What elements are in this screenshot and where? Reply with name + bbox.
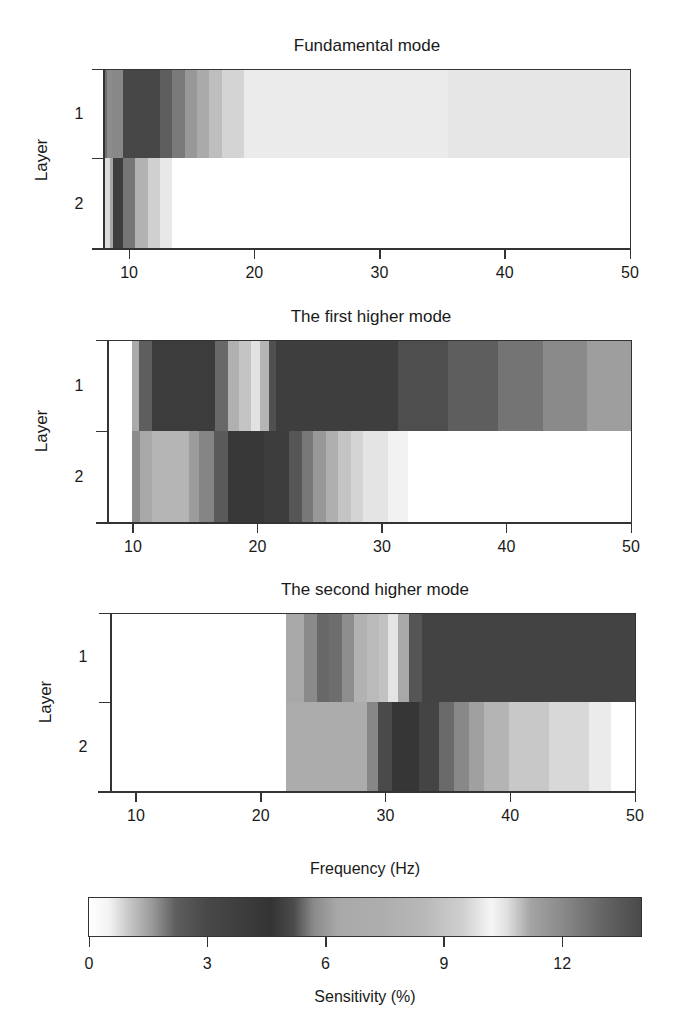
y-tick-label-layer-2: 2 <box>79 738 88 756</box>
x-tick <box>132 522 134 533</box>
sensitivity-cell <box>135 158 148 248</box>
x-tick <box>385 791 387 802</box>
y-tick-label-layer-1: 1 <box>75 377 84 395</box>
x-tick <box>510 791 512 802</box>
sensitivity-cell <box>286 702 368 791</box>
x-tick-label: 10 <box>120 264 138 282</box>
sensitivity-cell <box>363 431 388 522</box>
sensitivity-cell <box>139 340 152 431</box>
sensitivity-cell <box>439 702 454 791</box>
sensitivity-cell <box>448 69 630 158</box>
sensitivity-cell <box>228 431 265 522</box>
y-axis-line <box>110 613 112 792</box>
x-tick-label: 30 <box>377 807 395 825</box>
x-tick-label: 40 <box>496 264 514 282</box>
sensitivity-cell <box>409 613 422 702</box>
x-tick-label: 20 <box>252 807 270 825</box>
sensitivity-cell <box>469 702 484 791</box>
sensitivity-cell <box>276 340 399 431</box>
y-tick <box>96 340 107 342</box>
sensitivity-cell <box>244 69 449 158</box>
sensitivity-cell <box>113 158 124 248</box>
sensitivity-cell <box>209 69 222 158</box>
sensitivity-cell <box>199 431 214 522</box>
x-tick <box>257 522 259 533</box>
sensitivity-cell <box>543 340 588 431</box>
layer-row-2 <box>108 431 631 522</box>
x-tick <box>381 522 383 533</box>
panel-title: The second higher mode <box>281 580 469 600</box>
layer-row-1 <box>104 69 630 158</box>
sensitivity-cell <box>509 702 549 791</box>
sensitivity-cell <box>185 69 197 158</box>
sensitivity-cell <box>302 431 314 522</box>
sensitivity-cell <box>108 431 132 522</box>
sensitivity-cell <box>367 613 380 702</box>
sensitivity-cell <box>419 702 439 791</box>
sensitivity-cell <box>197 69 210 158</box>
sensitivity-cell <box>342 613 355 702</box>
x-tick-label: 20 <box>245 264 263 282</box>
sensitivity-cell <box>160 69 172 158</box>
x-tick <box>135 791 137 802</box>
panel-title: Fundamental mode <box>294 36 440 56</box>
sensitivity-cell <box>264 431 289 522</box>
y-tick-label-layer-1: 1 <box>79 648 88 666</box>
heatmap-plot <box>108 340 631 522</box>
x-tick <box>635 791 637 802</box>
colorbar-tick <box>207 936 209 947</box>
x-tick-label: 50 <box>626 807 644 825</box>
heatmap-plot <box>104 69 630 248</box>
y-axis-label: Layer <box>32 410 52 453</box>
y-tick <box>99 702 110 704</box>
sensitivity-cell <box>354 613 367 702</box>
x-tick-label: 30 <box>371 264 389 282</box>
colorbar-gradient <box>88 897 642 937</box>
sensitivity-cell <box>123 69 160 158</box>
sensitivity-cell <box>398 613 410 702</box>
y-tick <box>99 613 110 615</box>
sensitivity-cell <box>329 613 342 702</box>
colorbar-tick <box>562 936 564 947</box>
colorbar-tick <box>443 936 445 947</box>
y-tick-label-layer-1: 1 <box>75 105 84 123</box>
sensitivity-cell <box>587 340 631 431</box>
x-tick-label: 10 <box>124 538 142 556</box>
colorbar-tick <box>325 936 327 947</box>
y-axis-line <box>103 69 105 249</box>
x-tick-label: 20 <box>249 538 267 556</box>
sensitivity-cell <box>140 431 152 522</box>
colorbar-tick-label: 9 <box>439 955 448 973</box>
sensitivity-cell <box>448 340 498 431</box>
sensitivity-cell <box>286 613 305 702</box>
x-tick <box>254 248 256 259</box>
sensitivity-cell <box>454 702 469 791</box>
x-tick-label: 40 <box>501 807 519 825</box>
sensitivity-cell <box>289 431 303 522</box>
sensitivity-cell <box>367 702 379 791</box>
sensitivity-cell <box>422 613 635 702</box>
sensitivity-cell <box>408 431 631 522</box>
sensitivity-cell <box>317 613 330 702</box>
y-axis-line <box>107 340 109 523</box>
x-tick <box>631 522 633 533</box>
x-axis-line <box>92 248 631 250</box>
sensitivity-cell <box>111 613 286 702</box>
sensitivity-cell <box>378 702 392 791</box>
panel-title: The first higher mode <box>291 307 452 327</box>
sensitivity-cell <box>338 431 351 522</box>
colorbar-tick <box>89 936 91 947</box>
sensitivity-cell <box>172 158 630 248</box>
sensitivity-cell <box>228 340 240 431</box>
x-tick <box>506 522 508 533</box>
sensitivity-cell <box>148 158 160 248</box>
heatmap-plot <box>111 613 635 791</box>
sensitivity-cell <box>111 702 286 791</box>
colorbar-tick-label: 6 <box>321 955 330 973</box>
sensitivity-cell <box>215 340 228 431</box>
colorbar-tick-label: 3 <box>203 955 212 973</box>
colorbar-tick-label: 12 <box>553 955 571 973</box>
sensitivity-cell <box>326 431 339 522</box>
sensitivity-cell <box>214 431 228 522</box>
sensitivity-cell <box>313 431 326 522</box>
